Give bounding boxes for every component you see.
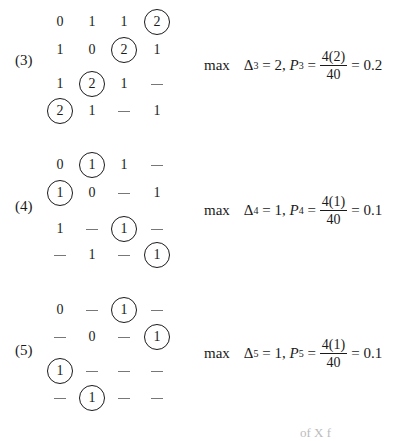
matrix-cell xyxy=(111,242,137,268)
fraction: 4(2)40 xyxy=(320,48,347,83)
matrix-cell xyxy=(111,324,137,350)
block-label: (3) xyxy=(15,52,33,69)
matrix-cell xyxy=(79,297,105,323)
p-subscript: 3 xyxy=(299,60,304,71)
dash-mark xyxy=(151,165,163,166)
dash-mark xyxy=(54,255,66,256)
circled-matrix-cell: 1 xyxy=(144,242,170,268)
matrix-cell xyxy=(79,216,105,242)
matrix-cell: 1 xyxy=(79,9,105,35)
numerator: 4(2) xyxy=(320,48,347,66)
matrix-cell: 0 xyxy=(47,9,73,35)
delta-value: = 1, xyxy=(262,202,285,219)
dash-mark xyxy=(54,337,66,338)
matrix-cell: 0 xyxy=(79,180,105,206)
circled-matrix-cell: 2 xyxy=(111,37,137,63)
dash-mark xyxy=(118,337,130,338)
max-label: max xyxy=(204,57,230,74)
matrix-cell xyxy=(111,358,137,384)
matrix-cell: 1 xyxy=(144,98,170,124)
matrix-cell: 1 xyxy=(47,37,73,63)
circled-matrix-cell: 1 xyxy=(47,180,73,206)
matrix-cell: 1 xyxy=(79,98,105,124)
circled-matrix-cell: 1 xyxy=(144,324,170,350)
probability-formula: maxΔ4 = 1, P4 =4(1)40= 0.1 xyxy=(204,193,382,228)
dash-mark xyxy=(118,255,130,256)
dash-mark xyxy=(86,310,98,311)
dash-mark xyxy=(86,371,98,372)
block-label: (4) xyxy=(15,198,33,215)
fraction: 4(1)40 xyxy=(320,336,347,371)
matrix-cell: 1 xyxy=(111,152,137,178)
matrix-cell xyxy=(47,242,73,268)
circled-matrix-cell: 1 xyxy=(111,297,137,323)
matrix-cell: 0 xyxy=(47,297,73,323)
dash-mark xyxy=(118,371,130,372)
dash-mark xyxy=(151,371,163,372)
matrix-cell xyxy=(79,358,105,384)
matrix-cell: 0 xyxy=(47,152,73,178)
matrix-cell: 1 xyxy=(111,71,137,97)
matrix-cell xyxy=(144,152,170,178)
denominator: 40 xyxy=(327,66,341,83)
denominator: 40 xyxy=(327,354,341,371)
dash-mark xyxy=(118,193,130,194)
circled-matrix-cell: 1 xyxy=(111,216,137,242)
max-label: max xyxy=(204,345,230,362)
probability-formula: maxΔ5 = 1, P5 =4(1)40= 0.1 xyxy=(204,336,382,371)
dash-mark xyxy=(151,84,163,85)
dash-mark xyxy=(151,310,163,311)
result: = 0.2 xyxy=(351,57,382,74)
matrix-cell xyxy=(144,358,170,384)
matrix-cell: 1 xyxy=(111,9,137,35)
denominator: 40 xyxy=(327,211,341,228)
circled-matrix-cell: 1 xyxy=(79,152,105,178)
delta-value: = 2, xyxy=(262,57,285,74)
matrix-cell: 1 xyxy=(79,242,105,268)
matrix-cell: 0 xyxy=(79,324,105,350)
dash-mark xyxy=(86,229,98,230)
equals: = xyxy=(307,57,315,74)
matrix-cell xyxy=(111,98,137,124)
probability-formula: maxΔ3 = 2, P3 =4(2)40= 0.2 xyxy=(204,48,382,83)
fraction: 4(1)40 xyxy=(320,193,347,228)
matrix-cell xyxy=(47,385,73,411)
matrix-cell xyxy=(111,180,137,206)
equals: = xyxy=(307,345,315,362)
dash-mark xyxy=(151,398,163,399)
circled-matrix-cell: 1 xyxy=(79,385,105,411)
numerator: 4(1) xyxy=(320,336,347,354)
matrix-cell: 0 xyxy=(79,37,105,63)
result: = 0.1 xyxy=(351,345,382,362)
dash-mark xyxy=(54,398,66,399)
delta-subscript: 3 xyxy=(253,60,258,71)
p-symbol: P xyxy=(289,57,298,74)
result: = 0.1 xyxy=(351,202,382,219)
matrix-cell: 1 xyxy=(144,180,170,206)
delta-symbol: Δ xyxy=(244,57,254,74)
matrix-cell xyxy=(144,216,170,242)
equals: = xyxy=(307,202,315,219)
numerator: 4(1) xyxy=(320,193,347,211)
dash-mark xyxy=(118,398,130,399)
p-symbol: P xyxy=(289,345,298,362)
matrix-cell xyxy=(144,71,170,97)
max-label: max xyxy=(204,202,230,219)
delta-subscript: 4 xyxy=(253,205,258,216)
block-label: (5) xyxy=(15,342,33,359)
delta-symbol: Δ xyxy=(244,202,254,219)
dash-mark xyxy=(151,229,163,230)
matrix-cell: 1 xyxy=(47,216,73,242)
matrix-cell: 1 xyxy=(47,71,73,97)
dash-mark xyxy=(118,111,130,112)
p-subscript: 5 xyxy=(299,348,304,359)
delta-subscript: 5 xyxy=(253,348,258,359)
matrix-cell: 1 xyxy=(144,37,170,63)
p-symbol: P xyxy=(289,202,298,219)
circled-matrix-cell: 1 xyxy=(47,358,73,384)
matrix-cell xyxy=(47,324,73,350)
matrix-cell xyxy=(144,385,170,411)
circled-matrix-cell: 2 xyxy=(144,9,170,35)
p-subscript: 4 xyxy=(299,205,304,216)
circled-matrix-cell: 2 xyxy=(47,98,73,124)
